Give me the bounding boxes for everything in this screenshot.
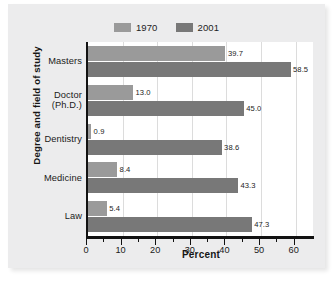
chart-legend: 1970 2001 [8, 23, 325, 33]
bar-2001-Law[interactable] [88, 217, 252, 232]
category-label-Dentistry: Dentistry [8, 134, 82, 145]
bar-value-label: 38.6 [224, 144, 239, 152]
x-tick-major-40 [224, 239, 225, 245]
x-tick-label-10: 10 [115, 246, 125, 255]
x-tick-minor-55 [276, 239, 277, 243]
bar-value-label: 45.0 [246, 105, 261, 113]
x-tick-label-30: 30 [185, 246, 195, 255]
x-tick-major-60 [294, 239, 295, 245]
x-tick-minor-5 [103, 239, 104, 243]
x-tick-label-50: 50 [254, 246, 264, 255]
bar-value-label: 47.3 [254, 221, 269, 229]
x-tick-label-60: 60 [289, 246, 299, 255]
x-tick-major-50 [259, 239, 260, 245]
bar-2001-DoctorPhD[interactable] [88, 101, 244, 116]
x-tick-major-20 [155, 239, 156, 245]
legend-swatch-1970 [114, 23, 131, 32]
bar-value-label: 8.4 [120, 166, 131, 174]
bar-group: 5.447.3 [88, 201, 313, 232]
legend-label-1970: 1970 [136, 23, 158, 33]
x-tick-major-10 [121, 239, 122, 245]
legend-label-2001: 2001 [198, 23, 220, 33]
category-label-Medicine: Medicine [8, 173, 82, 184]
legend-entry-2001[interactable]: 2001 [176, 23, 220, 33]
bar-value-label: 58.5 [293, 66, 308, 74]
category-label-Masters: Masters [8, 56, 82, 67]
bar-1970-Dentistry[interactable] [88, 124, 91, 139]
bar-1970-Masters[interactable] [88, 46, 225, 61]
x-tick-major-0 [86, 239, 87, 245]
bar-value-label: 39.7 [228, 50, 243, 58]
bar-group: 0.938.6 [88, 124, 313, 155]
x-tick-label-40: 40 [219, 246, 229, 255]
plot-area: 39.758.513.045.00.938.68.443.35.447.3 [86, 42, 313, 236]
x-tick-major-30 [190, 239, 191, 245]
category-label-Law: Law [8, 211, 82, 222]
bar-value-label: 43.3 [240, 182, 255, 190]
bar-2001-Medicine[interactable] [88, 178, 238, 193]
category-label-DoctorPhD: Doctor (Ph.D.) [8, 90, 82, 111]
bar-group: 39.758.5 [88, 46, 313, 77]
bar-2001-Masters[interactable] [88, 62, 291, 77]
bar-2001-Dentistry[interactable] [88, 140, 222, 155]
bar-group: 8.443.3 [88, 162, 313, 193]
x-tick-label-0: 0 [83, 246, 88, 255]
bar-value-label: 0.9 [94, 128, 105, 136]
bar-value-label: 13.0 [136, 89, 151, 97]
bar-1970-Law[interactable] [88, 201, 107, 216]
legend-swatch-2001 [176, 23, 193, 32]
plot-inner: 39.758.513.045.00.938.68.443.35.447.3 [88, 42, 313, 236]
x-tick-label-20: 20 [150, 246, 160, 255]
bar-group: 13.045.0 [88, 85, 313, 116]
bar-1970-DoctorPhD[interactable] [88, 85, 133, 100]
legend-entry-1970[interactable]: 1970 [114, 23, 158, 33]
x-tick-minor-45 [242, 239, 243, 243]
bar-1970-Medicine[interactable] [88, 162, 117, 177]
x-tick-minor-15 [138, 239, 139, 243]
x-tick-minor-35 [207, 239, 208, 243]
chart-figure: 1970 2001 Degree and field of study Perc… [8, 4, 325, 268]
x-tick-minor-25 [173, 239, 174, 243]
bar-value-label: 5.4 [109, 205, 120, 213]
